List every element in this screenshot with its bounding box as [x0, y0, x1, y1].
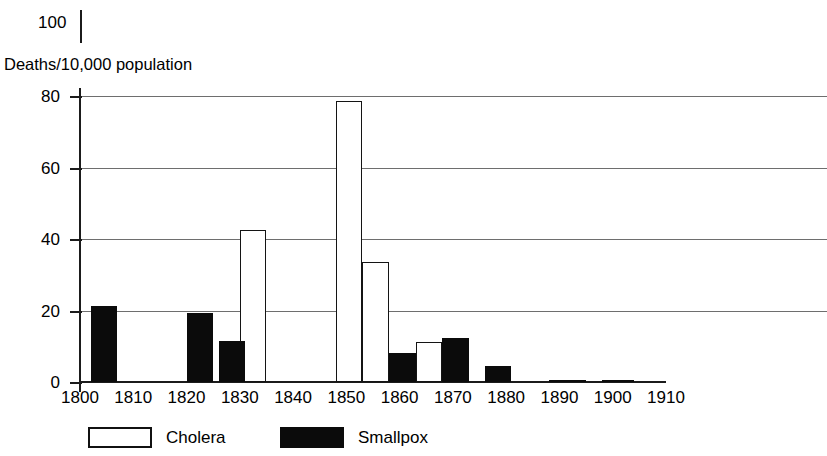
y-tick-label-80: 80 — [6, 88, 60, 105]
y-axis-title: Deaths/10,000 population — [4, 54, 192, 74]
y-axis-upper-segment — [80, 10, 82, 43]
y-axis-tick-label-100: 100 — [38, 13, 66, 33]
bar-smallpox-1858 — [389, 353, 416, 382]
bar-cholera-1863 — [416, 342, 443, 382]
bar-cholera-1853 — [362, 262, 389, 382]
plot-area — [80, 96, 827, 382]
bar-cholera-1848 — [336, 101, 363, 382]
y-axis-top-tick-group: 100 — [0, 6, 120, 46]
legend-swatch-cholera — [88, 427, 152, 448]
legend-swatch-smallpox — [280, 427, 344, 448]
bar-smallpox-1888 — [549, 380, 586, 382]
bar-smallpox-1826 — [219, 341, 246, 382]
x-tick-label-1910: 1910 — [634, 388, 698, 408]
bar-smallpox-1802 — [91, 306, 118, 382]
legend-label-cholera: Cholera — [166, 428, 226, 448]
bar-smallpox-1820 — [187, 313, 214, 382]
bar-smallpox-1868 — [442, 338, 469, 382]
y-tick-label-40: 40 — [6, 231, 60, 248]
y-tick-mark-0 — [70, 382, 82, 384]
chart-figure: 100 Deaths/10,000 population 806040200 1… — [0, 0, 827, 456]
bar-smallpox-1876 — [485, 366, 512, 382]
bar-smallpox-1898 — [602, 380, 634, 382]
legend-label-smallpox: Smallpox — [358, 428, 428, 448]
chart-legend: CholeraSmallpox — [0, 424, 827, 456]
y-tick-label-60: 60 — [6, 160, 60, 177]
y-tick-label-20: 20 — [6, 303, 60, 320]
